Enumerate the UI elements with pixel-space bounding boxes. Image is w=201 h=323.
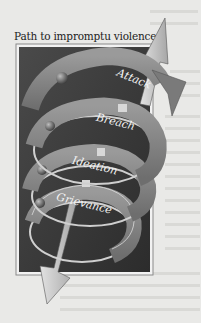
spiral-diagram: Attack Breach Ideation Grievance [0,0,201,323]
